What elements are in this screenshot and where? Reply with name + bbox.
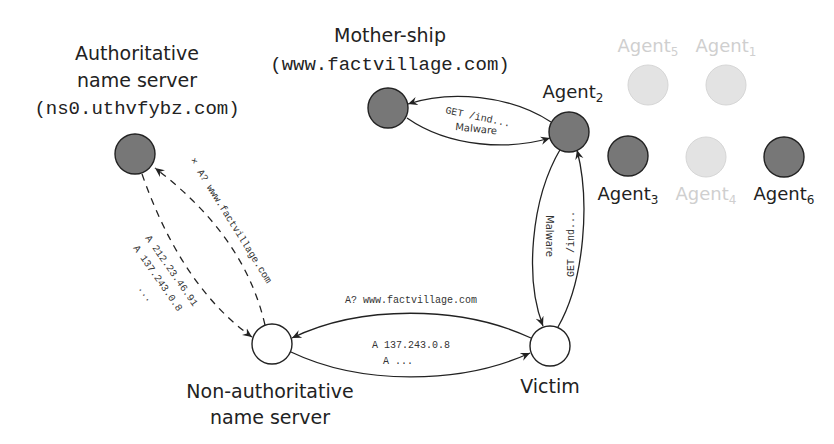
- victim-title: Victim: [520, 375, 580, 397]
- victim-node: [530, 326, 570, 366]
- mothership-host: (www.factvillage.com): [270, 54, 509, 76]
- agent2-node: [549, 112, 589, 152]
- agent1-label: Agent1: [696, 35, 757, 59]
- auth-answer-label-3: ...: [136, 283, 155, 304]
- agent6-label: Agent6: [754, 183, 815, 207]
- non-authoritative-title-line1: Non-authoritative: [186, 380, 353, 402]
- agent4-node: [686, 137, 726, 177]
- authoritative-title-line2: name server: [77, 69, 197, 91]
- agent2-label: Agent2: [543, 81, 604, 105]
- victim-answer-label-1: A 137.243.0.8: [372, 340, 450, 351]
- mothership-title: Mother-ship: [334, 24, 446, 46]
- agent3-node: [608, 136, 648, 176]
- agent3-label: Agent3: [598, 183, 659, 207]
- dns-malware-diagram: × A? www.factvillage.com A 212.23.46.91 …: [0, 0, 834, 444]
- agent-victim-label: Malware: [544, 215, 555, 257]
- victim-query-label: A? www.factvillage.com: [345, 295, 477, 306]
- auth-query-label: A? www.factvillage.com: [194, 168, 273, 286]
- agent5-label: Agent5: [618, 35, 679, 59]
- victim-answer-label-2: A ...: [383, 356, 413, 367]
- agent6-node: [764, 137, 804, 177]
- edge-victim-to-nonauth-query: [292, 313, 531, 338]
- non-authoritative-title-line2: name server: [210, 406, 330, 428]
- agent1-node: [706, 65, 746, 105]
- victim-agent-label: GET /ind...: [566, 211, 577, 277]
- mothership-node: [368, 88, 408, 128]
- auth-query-marker: ×: [187, 156, 200, 167]
- authoritative-host: (ns0.uthvfybz.com): [34, 98, 239, 120]
- authoritative-title-line1: Authoritative: [75, 42, 199, 64]
- non-authoritative-server-node: [252, 324, 292, 364]
- agent4-label: Agent4: [676, 183, 737, 207]
- agent5-node: [628, 65, 668, 105]
- authoritative-server-node: [115, 134, 155, 174]
